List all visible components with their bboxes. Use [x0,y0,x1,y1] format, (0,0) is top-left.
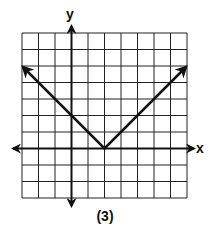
y-axis-label: y [66,6,74,22]
x-axis-label: x [196,140,204,156]
grid [22,33,187,198]
graph: x y [0,0,210,240]
figure-caption: (3) [0,208,210,224]
